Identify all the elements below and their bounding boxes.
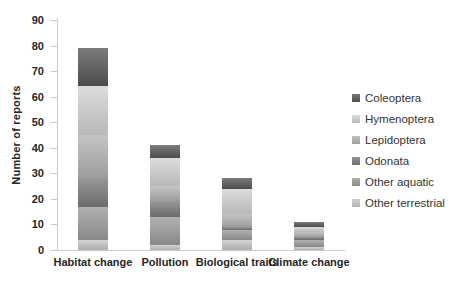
legend-marker-icon bbox=[352, 157, 360, 165]
bar-segment-other-terrestrial bbox=[78, 240, 108, 250]
legend-label: Other aquatic bbox=[365, 176, 434, 188]
y-tick-mark bbox=[51, 20, 57, 21]
legend-marker-icon bbox=[352, 115, 360, 123]
legend-marker-icon bbox=[352, 94, 360, 102]
bar-segment-other-terrestrial bbox=[222, 240, 252, 250]
bar-segment-other-terrestrial bbox=[294, 247, 324, 250]
bar-segment-hymenoptera bbox=[78, 86, 108, 135]
bar-segment-lepidoptera bbox=[222, 214, 252, 227]
y-tick-label: 0 bbox=[16, 244, 44, 256]
legend-item-other-aquatic: Other aquatic bbox=[352, 171, 445, 192]
y-tick-mark bbox=[51, 148, 57, 149]
y-tick-label: 90 bbox=[16, 14, 44, 26]
legend-marker-icon bbox=[352, 136, 360, 144]
legend-item-other-terrestrial: Other terrestrial bbox=[352, 192, 445, 213]
y-tick-label: 50 bbox=[16, 116, 44, 128]
bar-biological-traits bbox=[222, 178, 252, 250]
legend-item-lepidoptera: Lepidoptera bbox=[352, 129, 445, 150]
legend-marker-icon bbox=[352, 199, 360, 207]
bar-climate-change bbox=[294, 222, 324, 250]
legend-item-hymenoptera: Hymenoptera bbox=[352, 108, 445, 129]
legend-label: Lepidoptera bbox=[365, 134, 426, 146]
y-tick-label: 30 bbox=[16, 167, 44, 179]
legend-item-odonata: Odonata bbox=[352, 150, 445, 171]
bar-segment-other-aquatic bbox=[222, 230, 252, 240]
y-tick-mark bbox=[51, 122, 57, 123]
bar-segment-hymenoptera bbox=[150, 158, 180, 186]
legend-label: Other terrestrial bbox=[365, 197, 445, 209]
bar-segment-other-aquatic bbox=[78, 207, 108, 240]
legend: ColeopteraHymenopteraLepidopteraOdonataO… bbox=[352, 87, 445, 213]
y-tick-label: 80 bbox=[16, 40, 44, 52]
x-category-label: Climate change bbox=[264, 256, 354, 268]
legend-item-coleoptera: Coleoptera bbox=[352, 87, 445, 108]
x-axis-line bbox=[57, 250, 345, 251]
y-tick-mark bbox=[51, 71, 57, 72]
bar-segment-odonata bbox=[78, 178, 108, 206]
bar-segment-lepidoptera bbox=[150, 186, 180, 201]
bar-segment-coleoptera bbox=[78, 48, 108, 86]
y-tick-label: 70 bbox=[16, 65, 44, 77]
y-tick-mark bbox=[51, 97, 57, 98]
stacked-bar-chart-figure: Number of reports 0102030405060708090 Ha… bbox=[0, 0, 462, 284]
bar-segment-other-terrestrial bbox=[150, 245, 180, 250]
legend-marker-icon bbox=[352, 178, 360, 186]
y-tick-mark bbox=[51, 199, 57, 200]
bar-segment-lepidoptera bbox=[78, 135, 108, 178]
legend-label: Hymenoptera bbox=[365, 113, 434, 125]
y-tick-label: 40 bbox=[16, 142, 44, 154]
bar-habitat-change bbox=[78, 48, 108, 250]
bar-segment-coleoptera bbox=[222, 178, 252, 188]
bar-segment-coleoptera bbox=[150, 145, 180, 158]
y-tick-label: 20 bbox=[16, 193, 44, 205]
y-tick-label: 60 bbox=[16, 91, 44, 103]
y-axis-line bbox=[57, 18, 58, 251]
y-tick-mark bbox=[51, 46, 57, 47]
y-tick-label: 10 bbox=[16, 218, 44, 230]
legend-label: Coleoptera bbox=[365, 92, 421, 104]
bar-pollution bbox=[150, 145, 180, 250]
y-tick-mark bbox=[51, 173, 57, 174]
legend-label: Odonata bbox=[365, 155, 409, 167]
y-tick-mark bbox=[51, 250, 57, 251]
bar-segment-other-aquatic bbox=[150, 217, 180, 245]
y-tick-mark bbox=[51, 224, 57, 225]
bar-segment-odonata bbox=[150, 201, 180, 216]
bar-segment-hymenoptera bbox=[222, 189, 252, 215]
bar-segment-other-aquatic bbox=[294, 240, 324, 248]
